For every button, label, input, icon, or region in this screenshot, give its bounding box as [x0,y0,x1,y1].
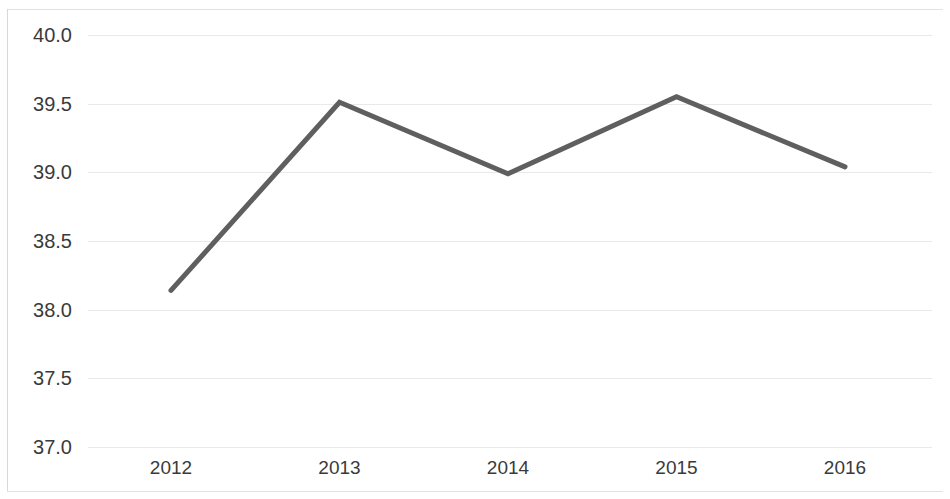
data-series-layer [0,0,950,499]
line-chart: 37.037.538.038.539.039.540.0 20122013201… [0,0,950,499]
series-line [171,97,845,291]
